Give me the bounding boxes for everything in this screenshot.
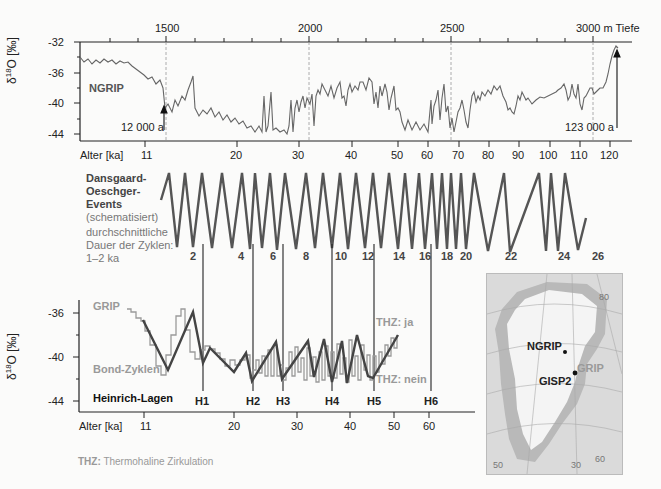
depth-ticks (110, 36, 593, 42)
do-description-line: 1–2 ka (86, 252, 173, 265)
graticule-label: 60 (595, 454, 605, 464)
bond-cycles-label: Bond-Zyklen (93, 363, 160, 375)
do-event-number: 24 (558, 250, 570, 262)
depth-tick-2500: 2500 (440, 22, 464, 34)
do-event-number: 22 (505, 250, 517, 262)
x-tick-top: 90 (512, 149, 524, 161)
do-event-number: 6 (270, 250, 276, 262)
do-event-number: 4 (238, 250, 244, 262)
footnote-abbr: THZ: (78, 456, 101, 467)
x-tick-bottom: 20 (228, 420, 240, 432)
x-tick-top: 100 (539, 149, 557, 161)
map-label-gisp2: GISP2 (539, 375, 571, 387)
x-tick-top: 80 (482, 149, 494, 161)
heinrich-event-label: H4 (325, 395, 339, 407)
graticule-label: 50 (493, 460, 503, 470)
footnote: THZ: Thermohaline Zirkulation (78, 456, 213, 467)
do-event-number: 8 (303, 250, 309, 262)
heinrich-event-label: H3 (276, 395, 290, 407)
thz-yes-label: THZ: ja (376, 316, 413, 328)
depth-tick-1500: 1500 (155, 22, 179, 34)
x-tick-bottom: 40 (344, 420, 356, 432)
map-label-ngrip: NGRIP (527, 340, 562, 352)
do-title-line: Events (86, 198, 173, 211)
depth-tick-3000: 3000 m Tiefe (576, 22, 640, 34)
heinrich-event-label: H6 (424, 395, 438, 407)
do-subtitle: (schematisiert) (86, 211, 173, 224)
do-event-number: 26 (592, 250, 604, 262)
x-axis-label-bottom: Alter [ka] (79, 420, 122, 432)
x-tick-top: 110 (570, 149, 588, 161)
x-axis-label-top: Alter [ka] (80, 149, 123, 161)
thz-no-label: THZ: nein (376, 373, 427, 385)
graticule-label: 80 (599, 292, 609, 302)
x-tick-top: 70 (452, 149, 464, 161)
do-event-number: 20 (460, 250, 472, 262)
y-tick-top-44: -44 (48, 128, 64, 140)
annotation-123000a: 123 000 a (565, 121, 614, 133)
graticule-label: 30 (571, 460, 581, 470)
y-tick-top-32: -32 (48, 36, 64, 48)
do-title-line: Dansgaard- (86, 172, 173, 185)
x-tick-bottom: 30 (291, 420, 303, 432)
do-description-line: Dauer der Zyklen: (86, 239, 173, 252)
x-tick-top: 11 (141, 149, 152, 161)
do-event-number: 16 (419, 250, 431, 262)
do-event-number: 18 (441, 250, 453, 262)
x-tick-bottom: 50 (388, 420, 400, 432)
heinrich-event-label: H1 (195, 395, 209, 407)
depth-tick-2000: 2000 (298, 22, 322, 34)
do-event-number: 12 (362, 250, 374, 262)
annotation-12000a: 12 000 a (121, 121, 164, 133)
heinrich-event-label: H5 (367, 395, 381, 407)
x-tick-top: 20 (230, 149, 242, 161)
y-tick-bottom: -44 (48, 395, 64, 407)
x-tick-top: 30 (292, 149, 304, 161)
y-tick-bottom: -36 (48, 307, 64, 319)
x-tick-bottom: 11 (140, 420, 151, 432)
x-tick-top: 120 (600, 149, 618, 161)
do-event-number: 10 (335, 250, 347, 262)
greenland-map: NGRIP GRIP GISP2 80 60 50 30 (486, 273, 623, 475)
x-tick-top: 40 (345, 149, 357, 161)
y-axis-label-bottom: δ18O [‰] (4, 333, 19, 380)
x-tick-top: 50 (391, 149, 403, 161)
ngrip-site-marker (563, 350, 567, 354)
y-axis-label-top: δ18O [‰] (4, 37, 19, 84)
do-events-legend: Dansgaard- Oeschger- Events (schematisie… (86, 172, 173, 265)
heinrich-event-label: H2 (246, 395, 260, 407)
heinrich-layers-label: Heinrich-Lagen (93, 392, 173, 404)
do-description-line: durchschnittliche (86, 226, 173, 239)
footnote-text: Thermohaline Zirkulation (101, 456, 214, 467)
map-label-grip: GRIP (577, 362, 604, 374)
do-events-zigzag (161, 173, 586, 252)
grip-label: GRIP (93, 300, 120, 312)
y-tick-top-36: -36 (48, 67, 64, 79)
y-tick-bottom: -40 (48, 351, 64, 363)
y-tick-top-40: -40 (48, 97, 64, 109)
do-event-number: 2 (190, 250, 196, 262)
x-tick-top: 60 (421, 149, 433, 161)
do-event-number: 14 (393, 250, 405, 262)
do-title-line: Oeschger- (86, 185, 173, 198)
x-tick-bottom: 60 (423, 420, 435, 432)
ngrip-label: NGRIP (89, 82, 124, 94)
map-graphic (487, 274, 622, 474)
age-arrows (161, 50, 620, 130)
